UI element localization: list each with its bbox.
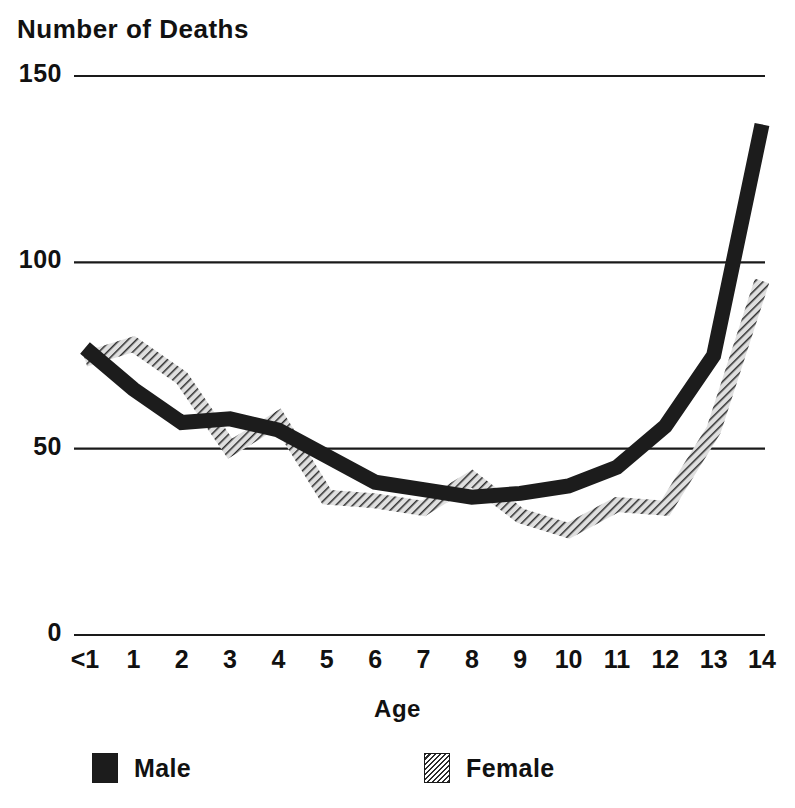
legend-label-female: Female — [466, 754, 555, 783]
x-axis-tick-label: 1 — [126, 645, 140, 674]
legend-swatch-male-icon — [92, 753, 118, 783]
x-axis-tick-label: 5 — [320, 645, 334, 674]
x-axis-tick-label: 8 — [465, 645, 479, 674]
plot-svg — [0, 0, 795, 700]
x-axis-title: Age — [0, 695, 795, 723]
legend-swatch-female-icon — [424, 753, 450, 783]
y-axis-tick-label: 50 — [0, 432, 62, 461]
legend-item-female: Female — [424, 748, 555, 788]
gridlines-group — [74, 76, 765, 635]
x-axis-tick-label: 2 — [175, 645, 189, 674]
male-series-path — [85, 124, 762, 497]
y-axis-tick-label: 100 — [0, 245, 62, 274]
legend-label-male: Male — [134, 754, 191, 783]
x-axis-tick-label: <1 — [71, 645, 100, 674]
x-axis-tick-label: 4 — [271, 645, 285, 674]
x-axis-tick-label: 10 — [555, 645, 583, 674]
y-axis-tick-label: 0 — [0, 618, 62, 647]
x-axis-tick-label: 3 — [223, 645, 237, 674]
x-axis-tick-label: 9 — [513, 645, 527, 674]
x-axis-tick-label: 7 — [417, 645, 431, 674]
x-axis-tick-label: 12 — [651, 645, 679, 674]
x-axis-tick-label: 11 — [604, 645, 630, 674]
x-axis-tick-label: 14 — [748, 645, 776, 674]
x-axis-tick-label: 13 — [700, 645, 728, 674]
series-male-line — [85, 124, 762, 497]
chart-legend: Male Female — [0, 748, 795, 796]
plot-area: 150100500 <11234567891011121314 — [0, 0, 795, 700]
x-axis-tick-label: 6 — [368, 645, 382, 674]
y-axis-tick-label: 150 — [0, 59, 62, 88]
chart-figure: Number of Deaths 150100500 <112345678910… — [0, 0, 795, 808]
legend-item-male: Male — [92, 748, 191, 788]
